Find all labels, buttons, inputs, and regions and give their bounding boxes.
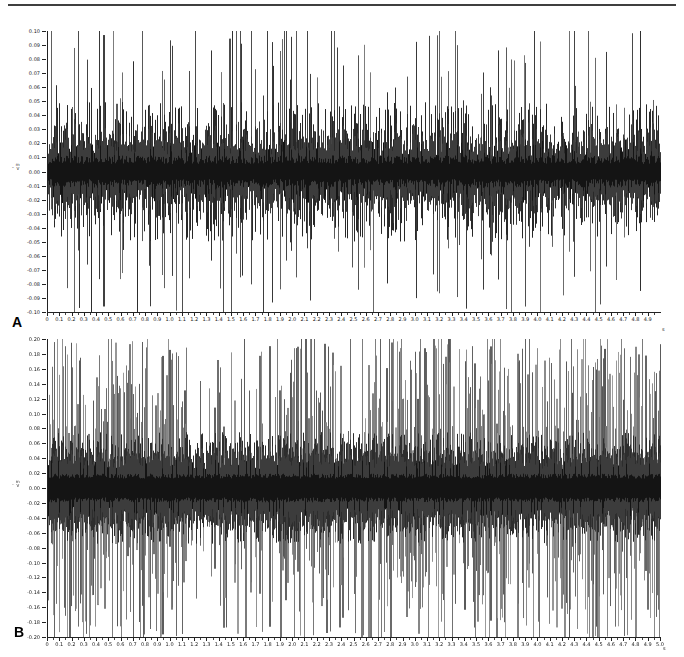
x-minor-tick xyxy=(213,638,214,640)
x-minor-tick xyxy=(605,638,606,640)
x-tick-label: 2.8 xyxy=(386,642,394,647)
x-minor-tick xyxy=(188,638,189,640)
x-tick-label: 2.2 xyxy=(313,642,321,647)
x-minor-tick xyxy=(409,638,410,640)
x-tick-label: 4.2 xyxy=(558,642,566,647)
x-tick-label: 3.0 xyxy=(411,642,419,647)
x-minor-tick xyxy=(298,638,299,640)
x-minor-tick xyxy=(372,638,373,640)
x-tick-label: 0.8 xyxy=(141,642,149,647)
y-tick-mark xyxy=(42,518,46,519)
x-minor-tick xyxy=(445,638,446,640)
x-tick-label: 3.8 xyxy=(509,642,517,647)
x-tick-label: 1.1 xyxy=(178,642,186,647)
x-axis-b: 00.10.20.30.40.50.60.70.80.91.01.11.21.3… xyxy=(47,638,660,652)
x-tick-label: 4.3 xyxy=(570,642,578,647)
x-minor-tick xyxy=(176,638,177,640)
x-tick-label: 3.1 xyxy=(423,642,431,647)
x-minor-tick xyxy=(642,638,643,640)
x-minor-tick xyxy=(163,638,164,640)
x-tick-label: 0.3 xyxy=(80,642,88,647)
y-tick-label: 0.16 xyxy=(29,366,40,371)
x-minor-tick xyxy=(237,638,238,640)
y-tick-label: -0.02 xyxy=(27,500,40,505)
y-tick-label: 0.02 xyxy=(29,471,40,476)
x-tick-label: 1.2 xyxy=(190,642,198,647)
x-tick-label: 2.9 xyxy=(399,642,407,647)
x-axis-unit-b: s xyxy=(663,645,666,651)
y-tick-label: -0.18 xyxy=(27,620,40,625)
x-tick-label: 3.4 xyxy=(460,642,468,647)
panel-b: - m V 0.200.180.160.140.120.100.080.060.… xyxy=(0,0,684,657)
x-minor-tick xyxy=(617,638,618,640)
y-tick-label: -0.08 xyxy=(27,545,40,550)
x-tick-label: 1.0 xyxy=(166,642,174,647)
x-minor-tick xyxy=(347,638,348,640)
x-minor-tick xyxy=(225,638,226,640)
x-tick-label: 2.1 xyxy=(300,642,308,647)
y-tick-mark xyxy=(42,443,46,444)
y-tick-mark xyxy=(42,458,46,459)
y-tick-mark xyxy=(42,473,46,474)
x-tick-label: 0.7 xyxy=(129,642,137,647)
x-minor-tick xyxy=(458,638,459,640)
x-tick-label: 4.8 xyxy=(631,642,639,647)
y-tick-mark xyxy=(42,637,46,638)
x-minor-tick xyxy=(151,638,152,640)
plot-area-b xyxy=(47,339,661,638)
y-tick-label: 0.00 xyxy=(29,486,40,491)
x-minor-tick xyxy=(421,638,422,640)
x-minor-tick xyxy=(53,638,54,640)
x-minor-tick xyxy=(286,638,287,640)
y-tick-label: 0.06 xyxy=(29,441,40,446)
x-minor-tick xyxy=(90,638,91,640)
y-tick-label: 0.18 xyxy=(29,351,40,356)
x-minor-tick xyxy=(102,638,103,640)
x-minor-tick xyxy=(531,638,532,640)
x-minor-tick xyxy=(139,638,140,640)
y-tick-mark xyxy=(42,488,46,489)
x-minor-tick xyxy=(629,638,630,640)
x-minor-tick xyxy=(519,638,520,640)
y-tick-mark xyxy=(42,622,46,623)
x-tick-label: 3.9 xyxy=(521,642,529,647)
y-tick-label: -0.16 xyxy=(27,605,40,610)
x-tick-label: 4.4 xyxy=(582,642,590,647)
x-tick-label: 0.9 xyxy=(153,642,161,647)
y-tick-label: 0.14 xyxy=(29,381,40,386)
x-tick-label: 1.7 xyxy=(251,642,259,647)
x-minor-tick xyxy=(335,638,336,640)
x-minor-tick xyxy=(274,638,275,640)
y-tick-label: -0.04 xyxy=(27,515,40,520)
y-tick-mark xyxy=(42,592,46,593)
x-tick-label: 2.5 xyxy=(350,642,358,647)
x-tick-label: 3.5 xyxy=(472,642,480,647)
x-tick-label: 1.3 xyxy=(202,642,210,647)
y-tick-mark xyxy=(42,399,46,400)
y-tick-mark xyxy=(42,339,46,340)
x-minor-tick xyxy=(470,638,471,640)
figure: - m V 0.100.090.080.070.060.050.040.030.… xyxy=(0,0,684,657)
x-tick-label: 4.1 xyxy=(546,642,554,647)
x-tick-label: 4.6 xyxy=(607,642,615,647)
x-tick-label: 0.6 xyxy=(117,642,125,647)
x-tick-label: 0.5 xyxy=(104,642,112,647)
x-minor-tick xyxy=(65,638,66,640)
y-tick-label: -0.20 xyxy=(27,635,40,640)
y-tick-label: -0.14 xyxy=(27,590,40,595)
x-tick-label: 1.8 xyxy=(264,642,272,647)
x-tick-label: 3.7 xyxy=(497,642,505,647)
x-tick-label: 1.9 xyxy=(276,642,284,647)
y-tick-mark xyxy=(42,384,46,385)
x-minor-tick xyxy=(556,638,557,640)
y-tick-mark xyxy=(42,369,46,370)
y-tick-mark xyxy=(42,533,46,534)
waveform-canvas-b xyxy=(48,339,661,637)
x-tick-label: 4.0 xyxy=(533,642,541,647)
x-minor-tick xyxy=(360,638,361,640)
y-tick-label: 0.12 xyxy=(29,396,40,401)
x-tick-label: 4.9 xyxy=(644,642,652,647)
x-tick-label: 2.0 xyxy=(288,642,296,647)
x-minor-tick xyxy=(593,638,594,640)
x-minor-tick xyxy=(568,638,569,640)
